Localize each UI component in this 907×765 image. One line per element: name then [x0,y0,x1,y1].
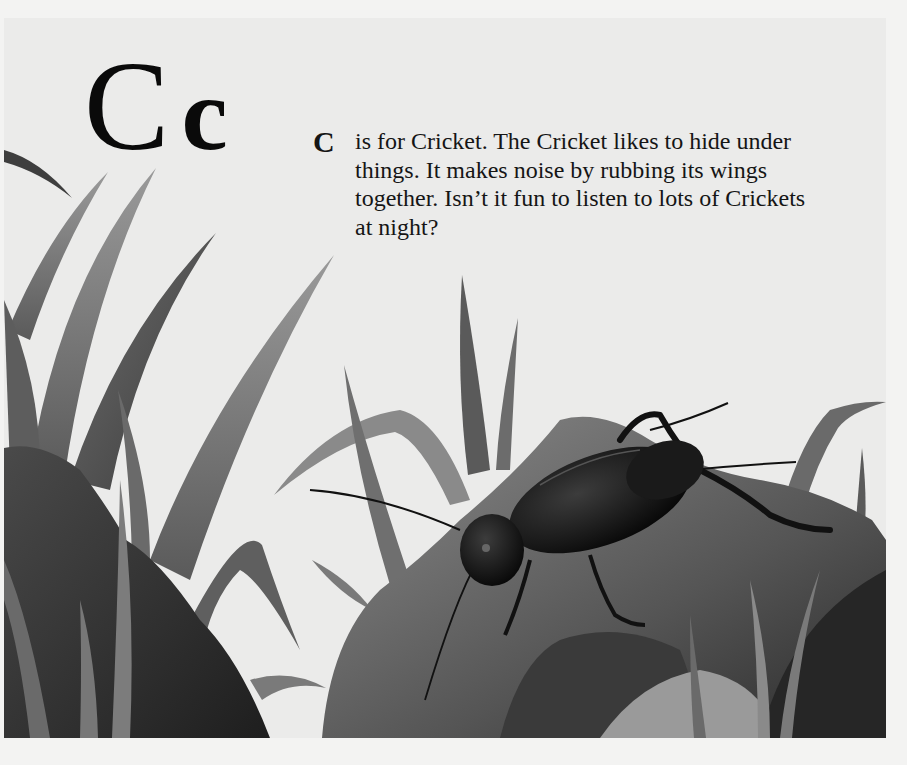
heading-lowercase-letter: c [181,56,227,171]
verse-lines: is for Cricket. The Cricket likes to hid… [355,127,873,241]
page-heading: Cc [84,42,228,170]
verse-line: at night? [355,213,873,242]
heading-uppercase-letter: C [84,35,169,177]
verse-line: together. Isn’t it fun to listen to lots… [355,184,873,213]
verse-initial: C [313,127,335,157]
verse-text: C is for Cricket. The Cricket likes to h… [313,127,873,241]
verse-line: things. It makes noise by rubbing its wi… [355,156,873,185]
book-page: Cc C is for Cricket. The Cricket likes t… [0,0,907,765]
verse-line: is for Cricket. The Cricket likes to hid… [355,127,873,156]
